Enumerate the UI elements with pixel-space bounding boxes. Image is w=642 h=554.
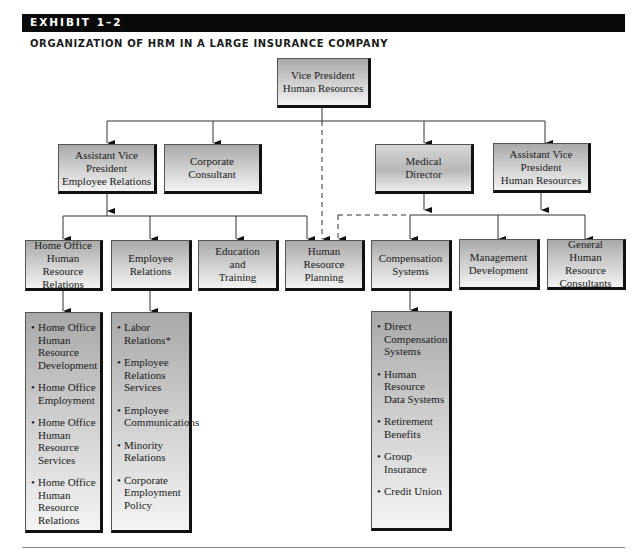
detail-employee-relations: Labor Relations* Employee Relations Serv… — [111, 312, 192, 533]
detail-item: Minority Relations — [117, 439, 185, 464]
box-management-development: Management Development — [459, 239, 540, 290]
detail-item: Home Office Human Resource Services — [31, 416, 96, 466]
detail-item: Employee Relations Services — [117, 356, 185, 394]
box-label: General Human Resource Consultants — [548, 238, 623, 290]
detail-item: Human Resource Data Systems — [377, 368, 445, 406]
detail-item: Direct Compensation Systems — [377, 320, 445, 358]
detail-item: Corporate Employment Policy — [117, 474, 185, 512]
detail-item: Retirement Benefits — [377, 415, 445, 440]
box-avp-human-resources: Assistant Vice President Human Resources — [493, 143, 591, 193]
box-avp-employee-relations: Assistant Vice President Employee Relati… — [58, 144, 157, 194]
detail-item: Employee Communications — [117, 404, 185, 429]
detail-item: Labor Relations* — [117, 321, 185, 346]
box-employee-relations: Employee Relations — [111, 240, 192, 291]
box-label: Assistant Vice President Employee Relati… — [62, 149, 151, 188]
box-medical-director: Medical Director — [375, 144, 474, 194]
box-general-hr-consultants: General Human Resource Consultants — [547, 239, 626, 290]
box-label: Human Resource Planning — [304, 245, 345, 284]
detail-home-office: Home Office Human Resource Development H… — [25, 312, 103, 533]
box-label: Compensation Systems — [379, 252, 443, 278]
box-label: Employee Relations — [128, 252, 173, 278]
box-label: Education and Training — [215, 245, 260, 284]
detail-item: Credit Union — [377, 485, 445, 498]
box-hr-planning: Human Resource Planning — [285, 240, 365, 291]
box-vp-human-resources: Vice President Human Resources — [277, 58, 371, 108]
box-home-office-hr-relations: Home Office Human Resource Relations — [25, 240, 103, 291]
detail-item: Group Insurance — [377, 450, 445, 475]
box-label: Management Development — [469, 251, 528, 277]
box-label: Corporate Consultant — [188, 155, 236, 181]
detail-item: Home Office Employment — [31, 381, 96, 406]
detail-item: Home Office Human Resource Development — [31, 321, 96, 371]
box-compensation-systems: Compensation Systems — [371, 240, 452, 291]
box-corporate-consultant: Corporate Consultant — [164, 144, 262, 194]
box-education-training: Education and Training — [198, 240, 279, 291]
bottom-rule — [22, 547, 625, 548]
box-label: Home Office Human Resource Relations — [26, 239, 100, 291]
box-label: Assistant Vice President Human Resources — [501, 148, 581, 187]
detail-item: Home Office Human Resource Relations — [31, 476, 96, 526]
detail-compensation: Direct Compensation Systems Human Resour… — [371, 311, 452, 531]
box-label: Vice President Human Resources — [283, 69, 363, 95]
box-label: Medical Director — [405, 155, 442, 181]
